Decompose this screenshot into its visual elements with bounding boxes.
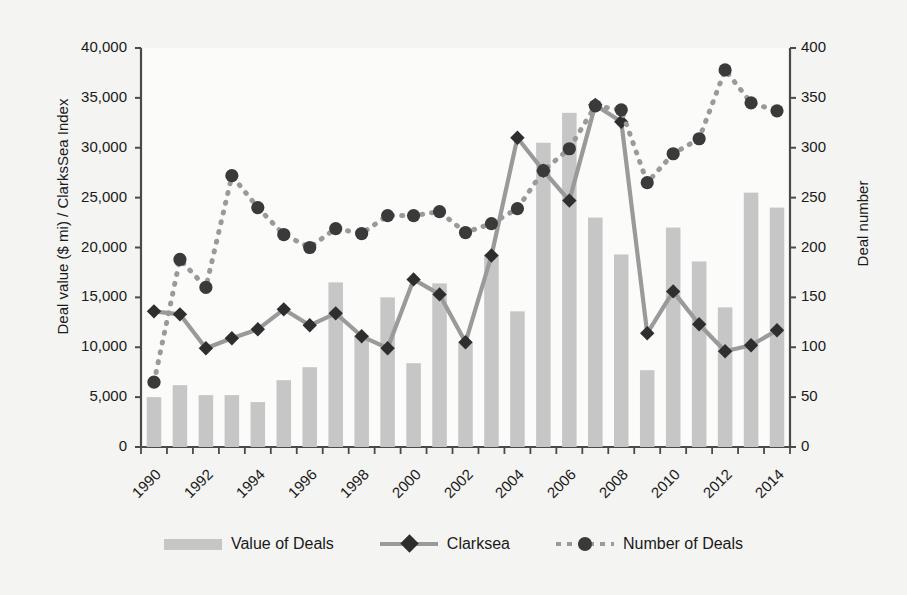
circle-marker (563, 142, 576, 155)
bar-value-of-deals (302, 367, 317, 447)
circle-marker (173, 253, 186, 266)
bar-value-of-deals (510, 311, 525, 447)
legend-item-value-of-deals[interactable]: Value of Deals (164, 535, 334, 553)
bar-value-of-deals (277, 380, 292, 447)
chart-container: Deal value ($ mi) / ClarksSea Index Deal… (0, 0, 907, 595)
circle-marker (147, 376, 160, 389)
bar-value-of-deals (744, 193, 759, 447)
circle-marker (511, 202, 524, 215)
circle-marker (225, 169, 238, 182)
bar-value-of-deals (562, 113, 577, 447)
bar-value-of-deals (640, 370, 655, 447)
bar-value-of-deals (484, 254, 499, 447)
circle-marker (407, 209, 420, 222)
bar-value-of-deals (173, 385, 188, 447)
bar-value-of-deals (380, 297, 395, 447)
solid-line-diamond-swatch-icon (380, 537, 438, 551)
bar-value-of-deals (458, 342, 473, 447)
circle-marker (329, 222, 342, 235)
bar-swatch-icon (164, 539, 222, 550)
circle-marker (770, 104, 783, 117)
circle-marker (615, 103, 628, 116)
circle-marker (459, 226, 472, 239)
bar-value-of-deals (406, 363, 421, 447)
circle-marker (589, 99, 602, 112)
bar-value-of-deals (354, 335, 369, 447)
circle-marker (719, 63, 732, 76)
circle-marker (693, 132, 706, 145)
legend-item-clarksea[interactable]: Clarksea (380, 535, 510, 553)
bar-value-of-deals (692, 261, 707, 447)
circle-marker (667, 147, 680, 160)
legend-label-number-of-deals: Number of Deals (623, 535, 743, 553)
legend-item-number-of-deals[interactable]: Number of Deals (556, 535, 743, 553)
chart-legend: Value of Deals Clarksea Number of Deals (0, 535, 907, 553)
bar-value-of-deals (147, 397, 162, 447)
circle-marker (641, 176, 654, 189)
bar-value-of-deals (614, 254, 629, 447)
circle-marker (303, 241, 316, 254)
circle-marker (277, 228, 290, 241)
circle-marker (433, 205, 446, 218)
circle-marker (537, 164, 550, 177)
circle-marker (744, 96, 757, 109)
bar-value-of-deals (718, 307, 733, 447)
circle-marker (355, 227, 368, 240)
plot-area (0, 0, 907, 595)
bar-value-of-deals (588, 218, 603, 447)
bar-value-of-deals (666, 228, 681, 447)
bar-value-of-deals (199, 395, 214, 447)
bar-value-of-deals (536, 143, 551, 447)
circle-marker (381, 209, 394, 222)
legend-label-clarksea: Clarksea (447, 535, 510, 553)
circle-marker (199, 281, 212, 294)
bar-value-of-deals (251, 402, 266, 447)
circle-marker (485, 217, 498, 230)
circle-marker (251, 201, 264, 214)
bar-value-of-deals (225, 395, 240, 447)
dotted-line-circle-swatch-icon (556, 537, 614, 551)
legend-label-value-of-deals: Value of Deals (231, 535, 334, 553)
